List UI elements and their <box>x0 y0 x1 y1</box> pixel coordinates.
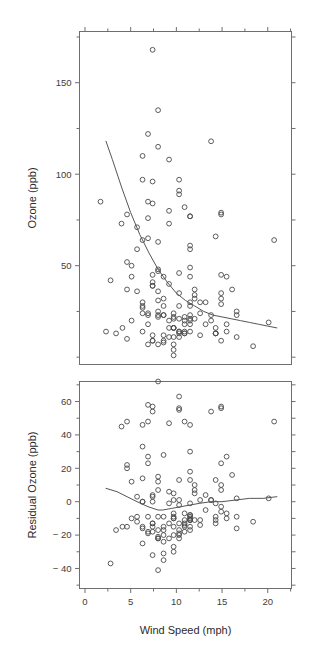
data-point <box>161 333 166 338</box>
data-point <box>146 236 151 241</box>
data-point <box>224 329 229 334</box>
data-point <box>125 524 130 529</box>
data-point <box>171 335 176 340</box>
data-point <box>146 419 151 424</box>
data-point <box>129 479 134 484</box>
data-point <box>156 298 161 303</box>
data-point <box>129 318 134 323</box>
x-axis-top <box>85 27 291 32</box>
data-point <box>203 300 208 305</box>
data-point <box>177 394 182 399</box>
data-point <box>224 516 229 521</box>
panel-top: 50100150Ozone (ppb) <box>26 27 296 365</box>
data-point <box>114 528 119 533</box>
data-point <box>177 498 182 503</box>
data-point <box>161 528 166 533</box>
y-tick-label-bottom: 20 <box>61 463 72 474</box>
data-point <box>161 453 166 458</box>
data-point <box>266 320 271 325</box>
data-point <box>161 514 166 519</box>
data-point <box>161 304 166 309</box>
data-point <box>129 516 134 521</box>
data-point <box>135 519 140 524</box>
two-panel-scatter-figure: 50100150Ozone (ppb)− 40− 200204060051015… <box>0 0 314 656</box>
data-point <box>224 274 229 279</box>
data-point <box>150 338 155 343</box>
data-point <box>188 449 193 454</box>
data-point <box>150 521 155 526</box>
data-point <box>203 493 208 498</box>
data-point <box>156 108 161 113</box>
data-point <box>156 474 161 479</box>
data-point <box>150 553 155 558</box>
data-point <box>219 272 224 277</box>
data-point <box>182 511 187 516</box>
y-axis-title-top: Ozone (ppb) <box>26 167 38 228</box>
data-point <box>140 444 145 449</box>
data-point <box>219 302 224 307</box>
data-point <box>251 519 256 524</box>
data-point <box>224 322 229 327</box>
data-point <box>219 504 224 509</box>
y-tick-label-bottom: − 40 <box>53 563 72 574</box>
data-point <box>156 568 161 573</box>
data-point <box>171 524 176 529</box>
data-point <box>234 514 239 519</box>
figure-container: 50100150Ozone (ppb)− 40− 200204060051015… <box>0 0 314 656</box>
data-point <box>213 331 218 336</box>
data-point <box>198 311 203 316</box>
data-point <box>146 461 151 466</box>
data-point <box>167 208 172 213</box>
x-tick-label: 5 <box>128 596 133 607</box>
data-point <box>182 205 187 210</box>
data-point <box>219 461 224 466</box>
data-point <box>234 335 239 340</box>
data-point <box>150 47 155 52</box>
data-point <box>219 291 224 296</box>
data-point <box>156 289 161 294</box>
data-point <box>224 511 229 516</box>
data-point <box>167 421 172 426</box>
data-point <box>171 326 176 331</box>
data-point <box>150 499 155 504</box>
y-tick-label-bottom: 0 <box>66 496 71 507</box>
data-point <box>125 260 130 265</box>
data-point <box>209 409 214 414</box>
data-point <box>161 296 166 301</box>
data-point <box>167 536 172 541</box>
data-point <box>182 529 187 534</box>
data-point <box>156 240 161 245</box>
y-tick-label-top: 50 <box>61 260 72 271</box>
y-tick-label-bottom: 60 <box>61 396 72 407</box>
data-point <box>272 238 277 243</box>
data-point <box>108 561 113 566</box>
y-axis-bottom: − 40− 200204060 <box>53 385 296 585</box>
data-point <box>192 518 197 523</box>
data-point <box>203 322 208 327</box>
data-point <box>167 157 172 162</box>
data-point <box>177 304 182 309</box>
data-point <box>108 278 113 283</box>
data-point <box>135 514 140 519</box>
data-point <box>104 329 109 334</box>
data-point <box>209 318 214 323</box>
data-point <box>171 549 176 554</box>
data-point <box>146 402 151 407</box>
data-point <box>167 489 172 494</box>
data-point <box>140 329 145 334</box>
data-point <box>192 316 197 321</box>
y-axis-top: 50100150 <box>56 37 296 357</box>
data-point <box>188 274 193 279</box>
data-point <box>219 483 224 488</box>
data-point <box>146 199 151 204</box>
data-point <box>135 247 140 252</box>
data-point <box>209 139 214 144</box>
data-point <box>177 528 182 533</box>
data-point <box>198 333 203 338</box>
data-point <box>234 526 239 531</box>
data-point <box>213 234 218 239</box>
data-point <box>161 539 166 544</box>
data-point <box>140 154 145 159</box>
data-point <box>171 353 176 358</box>
data-point <box>156 342 161 347</box>
